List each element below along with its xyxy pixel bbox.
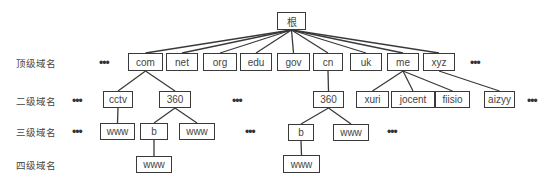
node-com-b-www: www <box>136 156 172 173</box>
node-cn-360: 360 <box>313 91 344 108</box>
node-gov: gov <box>277 53 310 71</box>
edge-root-com <box>146 30 292 53</box>
ellipsis-third-left: ••• <box>72 127 82 137</box>
node-xyz: xyz <box>423 53 455 71</box>
node-aizyy: aizyy <box>484 91 515 108</box>
edge-me-xuri <box>373 71 404 91</box>
node-cctv-www: www <box>100 123 135 140</box>
node-xuri: xuri <box>356 91 389 108</box>
node-com360-b: b <box>140 123 168 140</box>
node-com-360: 360 <box>159 91 191 108</box>
ellipsis-top-left: ••• <box>99 58 109 68</box>
ellipsis-second-left: ••• <box>72 96 82 106</box>
edge-root-net <box>182 30 292 53</box>
node-cn360-www: www <box>333 124 369 141</box>
edge-com-com-360 <box>146 71 176 91</box>
edge-root-me <box>292 30 404 53</box>
node-jocent: jocent <box>391 91 435 108</box>
ellipsis-second-mid: ••• <box>232 96 242 106</box>
edge-root-xyz <box>292 30 440 53</box>
ellipsis-top-right: ••• <box>470 58 480 68</box>
edge-cctv-cctv-www <box>118 108 119 123</box>
node-cctv: cctv <box>103 91 133 108</box>
ellipsis-second-right: ••• <box>527 96 537 106</box>
node-cn360-b: b <box>288 124 314 141</box>
node-cn-b-www: www <box>283 155 320 173</box>
node-me: me <box>387 53 419 71</box>
edge-root-org <box>220 30 292 53</box>
node-com360-www: www <box>179 123 215 140</box>
edge-com-cctv <box>118 71 146 91</box>
edge-cn-cn-360 <box>328 71 329 91</box>
edge-xyz-aizyy <box>439 71 500 91</box>
ellipsis-third-right: ••• <box>387 127 397 137</box>
level-label-second: 二级域名 <box>16 94 56 108</box>
edge-me-fiisio <box>403 71 453 91</box>
edge-cn360-b-cn-b-www <box>301 141 302 155</box>
node-cn: cn <box>313 53 343 71</box>
edge-cn-360-cn360-www <box>329 108 352 124</box>
node-fiisio: fiisio <box>435 91 470 108</box>
ellipsis-third-mid: ••• <box>245 127 255 137</box>
edge-root-uk <box>292 30 367 53</box>
node-net: net <box>166 53 198 71</box>
level-label-third: 三级域名 <box>16 125 56 139</box>
node-root: 根 <box>277 12 306 30</box>
node-edu: edu <box>240 53 272 71</box>
edge-cn-360-cn360-b <box>301 108 329 124</box>
edge-com-360-com360-www <box>175 108 197 123</box>
edge-root-gov <box>292 30 294 53</box>
node-com: com <box>128 53 163 71</box>
level-label-fourth: 四级域名 <box>16 158 56 172</box>
edge-com-360-com360-b <box>154 108 175 123</box>
node-uk: uk <box>350 53 382 71</box>
level-label-top: 顶级域名 <box>16 56 56 70</box>
node-org: org <box>203 53 237 71</box>
dns-hierarchy-diagram: 顶级域名二级域名三级域名四级域名 •••••••••••••••••••••••… <box>0 0 557 187</box>
